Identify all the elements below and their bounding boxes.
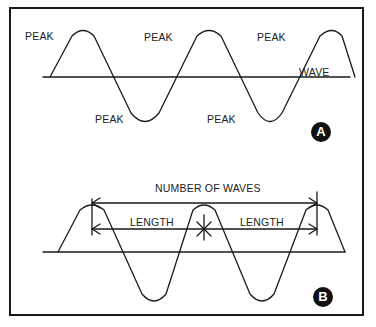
- label-peak-3: PEAK: [257, 31, 286, 43]
- panel-b-wave: [58, 205, 345, 301]
- label-number-of-waves: NUMBER OF WAVES: [155, 182, 261, 194]
- label-wave: WAVE: [299, 66, 330, 78]
- label-trough-2: PEAK: [207, 113, 236, 125]
- label-length-1: LENGTH: [130, 216, 174, 228]
- wave-diagram-graphics: [0, 0, 376, 327]
- label-length-2: LENGTH: [240, 216, 284, 228]
- badge-a: A: [311, 122, 331, 142]
- label-peak-1: PEAK: [25, 30, 54, 42]
- label-trough-1: PEAK: [95, 113, 124, 125]
- badge-b: B: [313, 287, 333, 307]
- label-peak-2: PEAK: [144, 31, 173, 43]
